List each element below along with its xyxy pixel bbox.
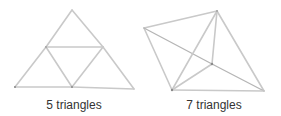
stick <box>103 47 134 89</box>
figure-5-triangles <box>14 10 134 89</box>
stick <box>72 47 103 87</box>
figure-7-triangles <box>144 10 264 91</box>
stick <box>72 10 103 47</box>
stick <box>172 90 264 91</box>
stick <box>46 10 72 47</box>
stick <box>172 64 212 90</box>
stick <box>15 47 46 87</box>
joint <box>171 89 173 91</box>
joint <box>211 63 213 65</box>
stick <box>172 11 217 90</box>
stick <box>72 87 134 89</box>
caption-5-triangles: 5 triangles <box>46 98 101 112</box>
caption-7-triangles: 7 triangles <box>186 98 241 112</box>
joint <box>45 46 47 48</box>
joint <box>14 86 16 88</box>
stick <box>144 11 217 28</box>
stick <box>46 47 72 87</box>
joint <box>71 86 73 88</box>
stick <box>144 28 212 64</box>
joint <box>216 10 218 12</box>
stick <box>144 28 172 90</box>
